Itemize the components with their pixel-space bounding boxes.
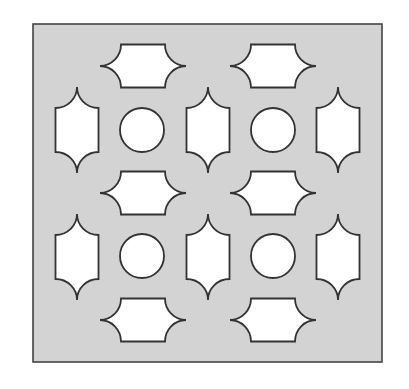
circle-cutout — [120, 234, 164, 278]
circle-cutout — [120, 108, 164, 152]
circle-cutout — [251, 108, 295, 152]
circle-cutout — [251, 234, 295, 278]
pattern-diagram — [0, 0, 409, 389]
grey-panel — [33, 24, 382, 362]
